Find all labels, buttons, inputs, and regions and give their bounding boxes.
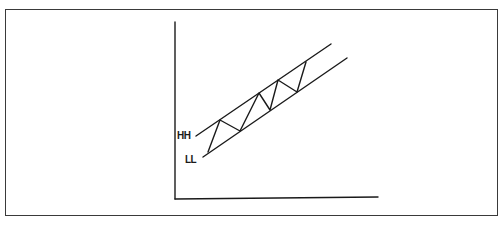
lower-trendline-ll — [203, 58, 347, 157]
label-ll: LL — [185, 155, 196, 165]
label-hh: HH — [177, 131, 190, 141]
channel-diagram — [0, 0, 503, 225]
price-zigzag — [208, 62, 306, 152]
upper-trendline-hh — [196, 44, 331, 136]
x-axis — [175, 197, 378, 199]
